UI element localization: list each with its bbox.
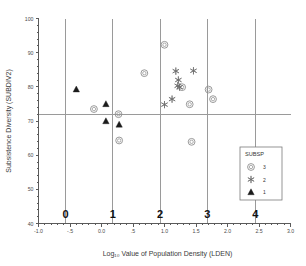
- data-point-subsp-3-4: [161, 41, 168, 48]
- data-point-subsp-3-9-inner: [211, 97, 214, 100]
- data-point-subsp-1-2: [103, 118, 109, 124]
- data-point-subsp-3-6: [186, 101, 193, 108]
- data-point-subsp-1-0: [73, 86, 79, 92]
- y-tick-label-0: 40: [28, 221, 34, 227]
- chart-canvas: 405060708090100-1.0-.50.0.51.01.52.02.53…: [0, 0, 306, 266]
- data-point-subsp-3-7: [188, 138, 195, 145]
- x-tick-label-4: 1.0: [161, 228, 168, 234]
- data-point-subsp-3-7-inner: [190, 140, 193, 143]
- x-tick-label-5: 1.5: [192, 228, 199, 234]
- group-label-4: 4: [252, 208, 259, 220]
- y-tick-label-3: 70: [28, 118, 34, 124]
- data-point-subsp-2-2: [173, 68, 179, 75]
- legend-label-2: 2: [263, 177, 266, 183]
- data-point-subsp-1-3: [116, 121, 122, 127]
- y-tick-label-6: 100: [25, 16, 34, 22]
- data-point-subsp-3-3: [141, 70, 148, 77]
- x-tick-label-0: -1.0: [34, 228, 43, 234]
- data-point-subsp-1-1: [103, 101, 109, 107]
- legend-label-3: 3: [263, 164, 266, 170]
- x-tick-label-2: 0.0: [98, 228, 105, 234]
- group-label-0: 0: [63, 208, 69, 220]
- y-tick-label-4: 80: [28, 84, 34, 90]
- y-tick-label-2: 60: [28, 152, 34, 158]
- group-label-1: 1: [110, 208, 116, 220]
- data-point-subsp-3-9: [210, 96, 217, 103]
- y-tick-label-1: 50: [28, 186, 34, 192]
- data-point-subsp-3-0-inner: [92, 107, 95, 110]
- data-point-subsp-2-0: [161, 101, 167, 108]
- group-label-3: 3: [204, 208, 210, 220]
- data-point-subsp-3-8: [205, 86, 212, 93]
- data-point-subsp-3-2-inner: [117, 139, 120, 142]
- x-tick-label-3: .5: [131, 228, 135, 234]
- legend-label-1: 1: [263, 189, 266, 195]
- legend-title: SUBSP: [245, 151, 264, 157]
- data-point-subsp-3-4-inner: [163, 43, 166, 46]
- x-tick-label-7: 2.5: [255, 228, 262, 234]
- y-axis-title: Subsistence Diversity (SUBDIV2): [5, 69, 13, 172]
- group-label-2: 2: [157, 208, 163, 220]
- x-axis-title: Log₁₀ Value of Population Density (LDEN): [103, 250, 233, 258]
- data-point-subsp-3-6-inner: [188, 103, 191, 106]
- x-tick-label-1: -.5: [67, 228, 73, 234]
- y-tick-label-5: 90: [28, 50, 34, 56]
- x-tick-label-6: 2.0: [224, 228, 231, 234]
- data-point-subsp-3-0: [91, 106, 98, 113]
- x-tick-label-8: 3.0: [287, 228, 294, 234]
- data-point-subsp-2-3: [175, 76, 181, 83]
- data-point-subsp-3-3-inner: [143, 71, 146, 74]
- data-point-subsp-2-1: [169, 96, 175, 103]
- data-point-subsp-3-2: [116, 137, 123, 144]
- scatter-plot-figure: 405060708090100-1.0-.50.0.51.01.52.02.53…: [0, 0, 306, 266]
- data-point-subsp-2-6: [190, 67, 196, 74]
